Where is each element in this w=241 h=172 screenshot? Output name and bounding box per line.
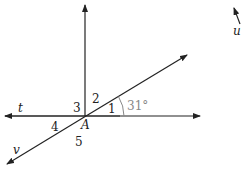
label-u: u — [233, 24, 241, 38]
point-A: A — [80, 118, 90, 132]
angle-1: 1 — [108, 102, 116, 116]
angle-arc — [119, 97, 125, 116]
angle-2: 2 — [92, 92, 100, 106]
angle-3: 3 — [73, 101, 81, 115]
line-u — [234, 8, 240, 24]
label-t: t — [18, 101, 23, 115]
label-v: v — [13, 143, 20, 157]
angle-4: 4 — [51, 120, 59, 134]
angle-5: 5 — [75, 135, 83, 149]
angle-diagram: t v u A 1 2 3 4 5 31° — [0, 0, 241, 172]
angle-measure: 31° — [127, 99, 148, 113]
